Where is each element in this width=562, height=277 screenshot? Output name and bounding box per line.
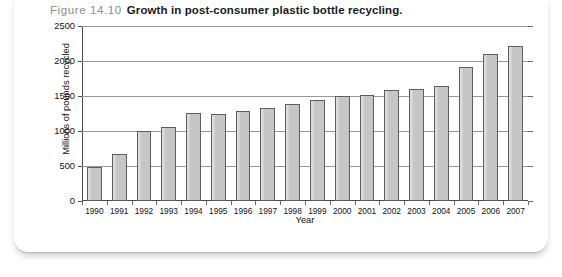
- bar: [112, 154, 127, 201]
- bar: [360, 95, 375, 201]
- y-axis-tick-right: [528, 26, 533, 27]
- y-axis-tick-right: [528, 166, 533, 167]
- bar: [211, 114, 226, 202]
- x-axis-tick: [107, 201, 108, 205]
- bar: [508, 46, 523, 201]
- plot-area: 05001000150020002500 1990199119921993199…: [82, 26, 528, 201]
- bar: [483, 54, 498, 201]
- bar: [137, 131, 152, 201]
- bar: [335, 96, 350, 201]
- y-axis-tick-right: [528, 96, 533, 97]
- figure-card: Figure 14.10Growth in post-consumer plas…: [14, 0, 548, 252]
- figure-number: Figure 14.10: [50, 4, 122, 16]
- x-axis-tick: [503, 201, 504, 205]
- y-axis-label: 500: [59, 161, 75, 171]
- figure-caption: Figure 14.10Growth in post-consumer plas…: [50, 4, 403, 16]
- bar: [285, 104, 300, 201]
- x-axis-tick: [82, 201, 83, 205]
- bar: [236, 111, 251, 201]
- bar: [260, 108, 275, 201]
- x-axis-title: Year: [82, 215, 528, 225]
- figure-title: Growth in post-consumer plastic bottle r…: [127, 4, 403, 16]
- x-axis-tick: [231, 201, 232, 205]
- bar: [409, 89, 424, 201]
- x-axis-tick: [181, 201, 182, 205]
- y-axis-label: 1000: [54, 126, 75, 136]
- x-axis-tick: [305, 201, 306, 205]
- y-axis-tick-right: [528, 61, 533, 62]
- x-axis-tick: [528, 201, 529, 205]
- x-axis-tick: [156, 201, 157, 205]
- x-axis-tick: [404, 201, 405, 205]
- x-axis-tick: [379, 201, 380, 205]
- bar: [87, 167, 102, 201]
- x-axis-tick: [280, 201, 281, 205]
- bar: [186, 113, 201, 201]
- x-axis-tick: [132, 201, 133, 205]
- x-axis-tick: [206, 201, 207, 205]
- x-axis-tick: [454, 201, 455, 205]
- x-axis-tick: [255, 201, 256, 205]
- bars-group: 1990199119921993199419951996199719981999…: [82, 26, 528, 201]
- bar: [384, 90, 399, 201]
- y-axis-label: 2500: [54, 21, 75, 31]
- y-axis-tick-right: [528, 131, 533, 132]
- bar-chart: Millions of pounds recycled 050010001500…: [36, 16, 536, 231]
- y-axis-label: 2000: [54, 56, 75, 66]
- x-axis-tick: [478, 201, 479, 205]
- x-axis-tick: [330, 201, 331, 205]
- bar: [459, 67, 474, 201]
- bar: [161, 127, 176, 201]
- y-axis-label: 1500: [54, 91, 75, 101]
- bar: [434, 86, 449, 202]
- x-axis-tick: [355, 201, 356, 205]
- bar: [310, 100, 325, 202]
- x-axis-tick: [429, 201, 430, 205]
- y-axis-label: 0: [70, 196, 75, 206]
